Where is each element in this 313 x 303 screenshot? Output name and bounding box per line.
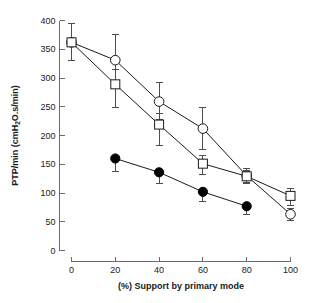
data-point-open-circle	[111, 55, 121, 65]
x-axis-title: (%) Support by primary mode	[118, 281, 244, 291]
data-point-open-circle	[154, 97, 164, 107]
data-point-open-square	[198, 159, 207, 168]
x-tick-label: 100	[283, 265, 298, 275]
x-tick-label: 40	[154, 265, 164, 275]
y-axis-ticks: 050100150200250300350400	[40, 16, 64, 256]
x-tick-label: 20	[110, 265, 120, 275]
axes-group	[60, 21, 291, 262]
x-tick-label: 80	[242, 265, 252, 275]
data-point-open-square	[67, 38, 76, 47]
data-series-group	[67, 23, 296, 220]
x-axis-ticks: 020406080100	[69, 257, 298, 275]
y-tick-label: 400	[40, 16, 55, 26]
data-point-filled-circle	[198, 187, 207, 196]
series-filled-circle-series	[111, 154, 252, 214]
data-point-open-square	[286, 191, 295, 200]
y-tick-label: 250	[40, 102, 55, 112]
data-point-open-circle	[198, 124, 208, 134]
x-tick-label: 60	[198, 265, 208, 275]
y-tick-label: 100	[40, 188, 55, 198]
chart-figure: 050100150200250300350400 020406080100 (%…	[0, 0, 313, 303]
svg-text:PTP/min (cmH2O.s/min): PTP/min (cmH2O.s/min)	[10, 85, 21, 186]
y-tick-label: 300	[40, 73, 55, 83]
y-axis-title: PTP/min (cmH2O.s/min)	[10, 85, 21, 186]
series-open-circle-series	[67, 23, 296, 220]
y-tick-label: 0	[50, 246, 55, 256]
series-open-square-series	[67, 23, 295, 205]
series-line	[72, 42, 291, 214]
y-tick-label: 50	[45, 217, 55, 227]
y-tick-label: 150	[40, 159, 55, 169]
data-point-open-square	[111, 80, 120, 89]
data-point-filled-circle	[242, 202, 251, 211]
data-point-filled-circle	[155, 168, 164, 177]
data-point-open-square	[155, 120, 164, 129]
data-point-open-square	[242, 172, 251, 181]
x-tick-label: 0	[69, 265, 74, 275]
series-line	[115, 159, 246, 207]
data-point-filled-circle	[111, 154, 120, 163]
data-point-open-circle	[286, 209, 296, 219]
chart-canvas: 050100150200250300350400 020406080100 (%…	[0, 0, 313, 303]
y-tick-label: 350	[40, 44, 55, 54]
series-line	[72, 42, 291, 196]
y-tick-label: 200	[40, 131, 55, 141]
